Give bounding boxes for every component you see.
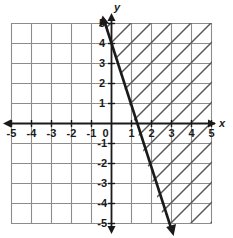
- x-tick-label: 1: [128, 127, 134, 139]
- y-tick-label: 2: [99, 77, 105, 89]
- y-tick-label: 3: [99, 57, 105, 69]
- x-tick-label: 5: [208, 127, 214, 139]
- x-tick-label: -3: [47, 127, 57, 139]
- y-tick-label: 1: [99, 97, 105, 109]
- y-tick-label: 5: [99, 17, 105, 29]
- coordinate-plane-svg: -5 -4 -3 -2 -1 0 1 2 3 4 5 5 4 3 2 1 -1 …: [0, 0, 233, 238]
- y-tick-label: -4: [97, 197, 108, 209]
- graph-figure: -5 -4 -3 -2 -1 0 1 2 3 4 5 5 4 3 2 1 -1 …: [0, 0, 233, 238]
- x-axis-label: x: [218, 117, 226, 129]
- x-tick-label: 2: [148, 127, 154, 139]
- y-tick-label: 4: [99, 37, 106, 49]
- x-tick-label: -1: [87, 127, 97, 139]
- y-tick-label: -1: [97, 137, 107, 149]
- x-tick-label: -5: [7, 127, 17, 139]
- x-tick-label: -4: [27, 127, 38, 139]
- y-tick-label: -2: [97, 157, 107, 169]
- y-tick-label: -3: [97, 177, 107, 189]
- x-tick-label: 3: [168, 127, 174, 139]
- x-tick-label: -2: [67, 127, 77, 139]
- x-tick-label: 4: [188, 127, 195, 139]
- y-tick-label: -5: [97, 217, 107, 229]
- y-axis-label: y: [113, 1, 121, 13]
